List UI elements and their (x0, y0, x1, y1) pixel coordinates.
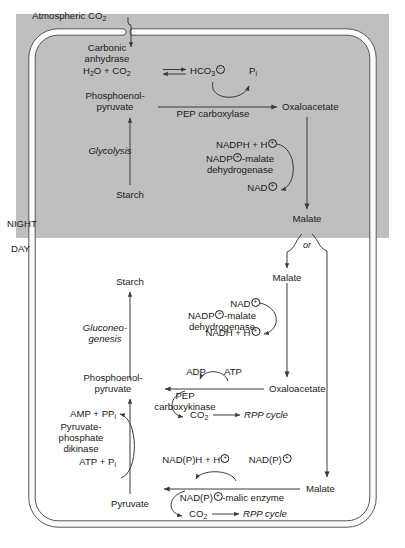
mdh-night-line1: NADP+-malate (206, 153, 274, 164)
amp-sub: i (114, 413, 116, 420)
bicarbonate-text: HCO (190, 65, 211, 76)
atmospheric-co2-text: Atmospheric CO (32, 10, 102, 21)
co2-label-pepck: CO2 (190, 409, 208, 423)
adp-label: ADP (186, 366, 206, 377)
starch-label-day: Starch (116, 276, 144, 287)
rpp-cycle-label-lower: RPP cycle (243, 508, 287, 519)
atp-pi-label: ATP + Pi (79, 456, 116, 470)
malate-label-day-left: Malate (273, 272, 302, 283)
mdh-day-nadp: NADP (188, 310, 215, 321)
mdh-day-charge: + (215, 310, 224, 319)
nadp-malic-substrate-label: NAD(P)+ (249, 454, 292, 465)
or-label: or (303, 240, 311, 251)
nadh-day-charge: + (251, 327, 260, 336)
mdh-day-malate: -malate (224, 310, 256, 321)
co2-sub: 2 (127, 70, 131, 77)
day-label: DAY (11, 243, 30, 254)
inorganic-phosphate-label: Pi (249, 65, 257, 79)
mdh-night-charge: + (233, 153, 242, 162)
pep-label-day: Phosphoenol- pyruvate (83, 372, 142, 394)
atp-pi-sub: i (114, 461, 116, 468)
mdh-night-malate: -malate (242, 153, 274, 164)
cam-pathway-diagram: Atmospheric CO2 NIGHT DAY Carbonic anhyd… (0, 0, 405, 548)
oxaloacetate-label-night: Oxaloacetate (282, 101, 339, 112)
co2-text: O + CO (94, 65, 127, 76)
malic-enzyme-label: NAD(P)+-malic enzyme (180, 492, 284, 503)
ppdk-line3: dikinase (59, 443, 104, 454)
gluconeogenesis-label: Gluconeo- genesis (83, 322, 127, 344)
nadh-day-text: NADH + H (205, 327, 250, 338)
carbonic-anhydrase-label: Carbonic anhydrase (85, 42, 130, 64)
nad-night-text: NAD (247, 182, 267, 193)
carbonic-anhydrase-line2: anhydrase (85, 53, 130, 64)
ppdk-line2: phosphate (59, 432, 104, 443)
bicarbonate-label: HCO3− (190, 65, 225, 79)
nadp-malic-charge: + (282, 454, 291, 463)
nadph-malic-product-label: NAD(P)H + H+ (162, 454, 229, 465)
nad-day-charge: + (251, 298, 260, 307)
nad-day-text: NAD (230, 298, 250, 309)
rpp-cycle-label-upper: RPP cycle (244, 409, 288, 420)
pi-sub: i (255, 70, 257, 77)
co2-malic-text: CO (189, 508, 203, 519)
pyruvate-phosphate-dikinase-label: Pyruvate- phosphate dikinase (59, 421, 104, 454)
nadph-text: NADPH + H (216, 139, 267, 150)
gluconeo-line1: Gluconeo- (83, 322, 127, 333)
pep-day-line2: pyruvate (83, 383, 142, 394)
mdh-night-nadp: NADP (206, 153, 233, 164)
nad-night-charge: + (268, 182, 277, 191)
nad-label-night: NAD+ (247, 182, 277, 193)
carbonic-anhydrase-line1: Carbonic (85, 42, 130, 53)
amp-ppi-label: AMP + PPi (70, 408, 116, 422)
atp-label: ATP (224, 366, 242, 377)
atmospheric-co2-subscript: 2 (102, 15, 106, 22)
malate-label-night: Malate (293, 213, 322, 224)
co2-label-malic: CO2 (189, 508, 207, 522)
pepck-line1: PEP (154, 390, 215, 401)
pyruvate-label: Pyruvate (111, 498, 149, 509)
malic-enzyme-text: -malic enzyme (222, 492, 284, 503)
amp-text: AMP + PP (70, 408, 114, 419)
starch-label-night: Starch (116, 189, 144, 200)
atmospheric-co2-label: Atmospheric CO2 (32, 10, 106, 24)
gluconeo-line2: genesis (83, 333, 127, 344)
nadph-label-night: NADPH + H+ (216, 139, 277, 150)
co2-pepck-text: CO (190, 409, 204, 420)
co2-malic-sub: 2 (203, 513, 207, 520)
oxaloacetate-label-day: Oxaloacetate (269, 383, 326, 394)
night-label: NIGHT (7, 218, 37, 229)
malate-label-day-right: Malate (306, 483, 335, 494)
nadph-charge: + (268, 139, 277, 148)
nad-label-day: NAD+ (230, 298, 260, 309)
malic-enzyme-nadp: NAD(P) (180, 492, 213, 503)
bicarbonate-charge: − (216, 65, 225, 74)
pep-night-line2: pyruvate (85, 101, 144, 112)
nadph-malic-text: NAD(P)H + H (162, 454, 220, 465)
nadp-malic-text: NAD(P) (249, 454, 282, 465)
bicarbonate-sub: 3 (211, 70, 215, 77)
nadph-malic-charge: + (221, 454, 230, 463)
night-background (16, 14, 389, 238)
pep-night-line1: Phosphoenol- (85, 90, 144, 101)
nadp-malate-dehydrogenase-night: NADP+-malate dehydrogenase (206, 153, 274, 175)
water-h: H (83, 65, 90, 76)
mdh-day-line1: NADP+-malate (188, 310, 256, 321)
mdh-night-line2: dehydrogenase (206, 164, 274, 175)
atp-pi-text: ATP + P (79, 456, 114, 467)
pep-label-night: Phosphoenol- pyruvate (85, 90, 144, 112)
pep-day-line1: Phosphoenol- (83, 372, 142, 383)
co2-pepck-sub: 2 (204, 414, 208, 421)
hydration-reactants: H2O + CO2 (83, 65, 131, 79)
diagram-vector-layer (0, 0, 405, 548)
nadh-label-day: NADH + H+ (205, 327, 260, 338)
glycolysis-label: Glycolysis (88, 145, 131, 156)
ppdk-line1: Pyruvate- (59, 421, 104, 432)
malic-enzyme-charge: + (213, 492, 222, 501)
pep-carboxylase-label: PEP carboxylase (177, 108, 250, 119)
